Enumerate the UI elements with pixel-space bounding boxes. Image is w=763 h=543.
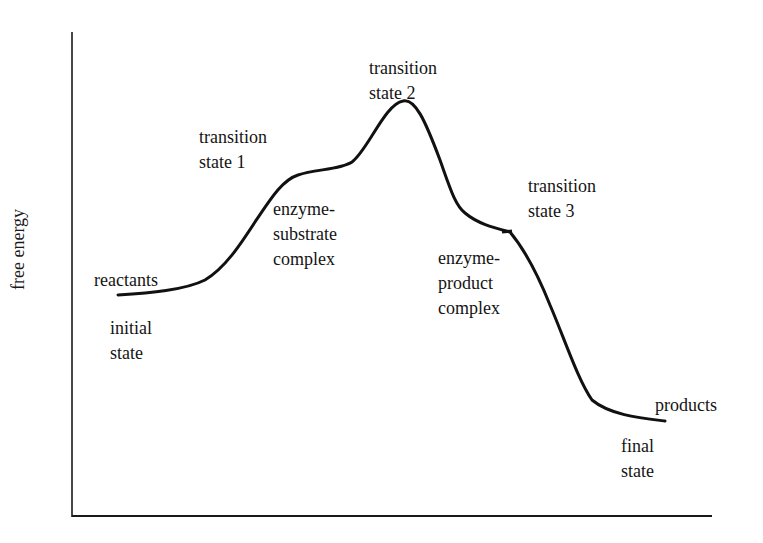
label-initial-state: initial state — [110, 316, 152, 366]
label-enzyme-product-complex: enzyme- product complex — [438, 246, 500, 321]
label-transition-state-3: transition state 3 — [528, 174, 596, 224]
curve-tick-mark — [502, 231, 512, 232]
label-enzyme-substrate-complex: enzyme- substrate complex — [273, 197, 337, 272]
label-transition-state-1: transition state 1 — [199, 125, 267, 175]
y-axis-label: free energy — [8, 209, 29, 290]
label-products: products — [655, 393, 717, 418]
label-transition-state-2: transition state 2 — [369, 56, 437, 106]
label-final-state: final state — [621, 434, 654, 484]
label-reactants: reactants — [94, 268, 158, 293]
